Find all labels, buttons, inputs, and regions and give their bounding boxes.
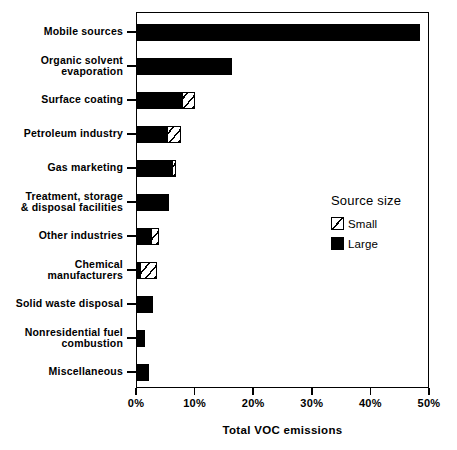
bar-row [136,15,420,49]
x-tick [135,388,137,395]
x-tick-label: 20% [242,397,265,409]
category-tick [127,235,136,237]
category-tick [127,303,136,305]
legend-item-large: Large [331,237,426,250]
stacked-bar [136,330,145,347]
stacked-bar [136,262,157,279]
legend-label-large: Large [348,238,378,250]
stacked-bar [136,364,149,381]
category-label-row: Solid waste disposal [16,287,136,321]
category-tick [127,31,136,33]
bar-segment-large [136,24,420,41]
category-label-row: Surface coating [41,83,136,117]
category-label-row: Treatment, storage & disposal facilities [21,185,136,219]
x-tick [428,388,430,395]
bar-segment-large [136,126,167,143]
x-tick-label: 0% [128,397,145,409]
bar-segment-large [136,364,149,381]
category-label-row: Nonresidential fuel combustion [25,321,136,355]
x-tick-label: 50% [418,397,441,409]
bar-segment-small [182,92,194,109]
category-label-row: Organic solvent evaporation [41,49,136,83]
category-label-row: Other industries [39,219,136,253]
stacked-bar [136,296,153,313]
category-tick [127,133,136,135]
stacked-bar [136,126,181,143]
category-label-row: Gas marketing [47,151,136,185]
bar-row [136,49,232,83]
legend-title: Source size [331,193,426,208]
bar-segment-large [136,160,172,177]
legend-item-small: Small [331,217,426,230]
stacked-bar [136,24,420,41]
stacked-bar [136,58,232,75]
x-axis-title: Total VOC emissions [136,424,429,436]
bar-row [136,219,159,253]
stacked-bar [136,92,195,109]
x-tick-label: 10% [183,397,206,409]
x-tick [252,388,254,395]
bar-segment-large [136,194,169,211]
x-tick-label: 40% [359,397,382,409]
bar-segment-small [140,262,157,279]
x-tick-label: 30% [300,397,323,409]
category-label: Chemical manufacturers [47,259,125,282]
category-tick [127,269,136,271]
legend-label-small: Small [348,218,377,230]
bar-row [136,151,176,185]
voc-emissions-figure: Mobile sourcesOrganic solvent evaporatio… [0,0,457,450]
category-label: Miscellaneous [49,366,125,378]
category-tick [127,337,136,339]
bar-row [136,185,169,219]
bar-segment-large [136,296,153,313]
bar-segment-large [136,58,232,75]
bar-row [136,287,153,321]
x-tick [370,388,372,395]
bar-row [136,83,195,117]
category-label: Mobile sources [44,26,125,38]
x-tick [194,388,196,395]
stacked-bar [136,194,169,211]
category-label: Gas marketing [47,162,125,174]
legend-swatch-large-icon [331,237,344,250]
bar-row [136,321,145,355]
category-label: Treatment, storage & disposal facilities [21,191,125,214]
category-tick [127,167,136,169]
category-tick [127,99,136,101]
figure-caption [28,443,448,450]
legend-swatch-small-icon [331,217,344,230]
bar-segment-small [167,126,181,143]
category-label: Organic solvent evaporation [41,55,125,78]
bar-row [136,253,157,287]
bar-segment-large [136,228,151,245]
category-label-row: Chemical manufacturers [47,253,136,287]
category-tick [127,65,136,67]
bar-row [136,117,181,151]
bar-segment-small [172,160,176,177]
category-label-row: Miscellaneous [49,355,136,389]
category-tick [127,371,136,373]
category-axis: Mobile sourcesOrganic solvent evaporatio… [0,12,136,388]
stacked-bar [136,228,159,245]
category-label-row: Mobile sources [44,15,136,49]
stacked-bar [136,160,176,177]
category-label: Nonresidential fuel combustion [25,327,125,350]
category-label: Solid waste disposal [16,298,125,310]
x-tick [311,388,313,395]
bar-row [136,355,149,389]
category-label: Other industries [39,230,125,242]
category-label: Surface coating [41,94,125,106]
bar-segment-large [136,330,145,347]
category-tick [127,201,136,203]
bar-segment-large [136,92,182,109]
category-label-row: Petroleum industry [24,117,136,151]
category-label: Petroleum industry [24,128,125,140]
bar-segment-small [151,228,159,245]
x-axis: 0%10%20%30%40%50% [136,388,429,450]
legend: Source size Small Large [331,193,426,257]
